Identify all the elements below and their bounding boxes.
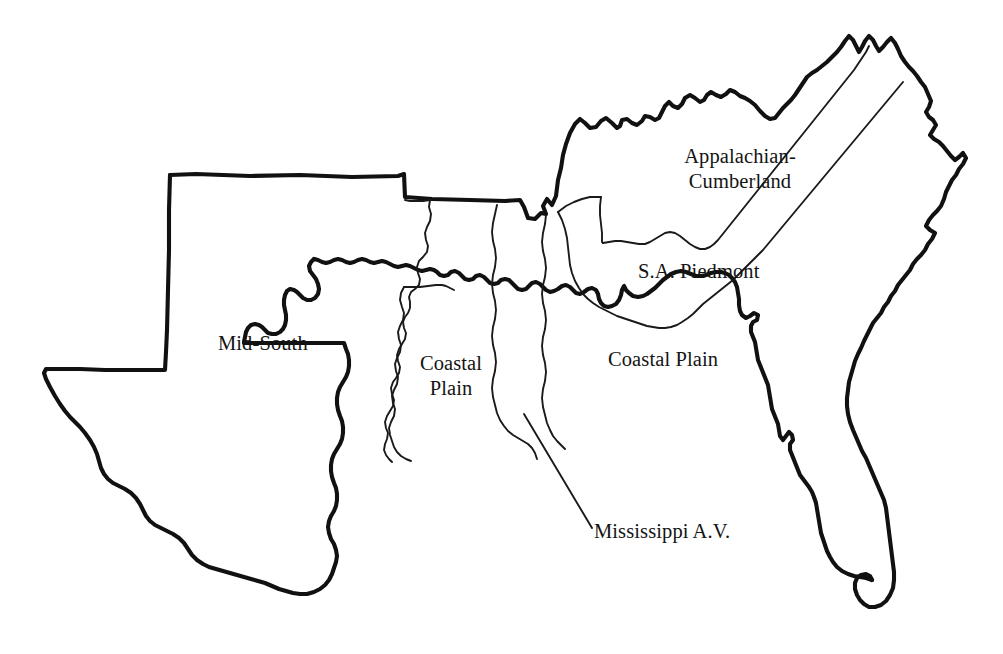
label-coastal-plain-east: Coastal Plain: [608, 347, 788, 372]
mississippi-av-east-line: [542, 215, 565, 449]
region-outer-boundary: [170, 36, 966, 607]
map-figure: Mid-South Coastal Plain Appalachian- Cum…: [0, 0, 1003, 654]
label-sa-piedmont: S.A. Piedmont: [638, 259, 818, 284]
mississippi-av-west-line: [492, 205, 537, 459]
label-appalachian-cumberland: Appalachian- Cumberland: [640, 144, 840, 194]
arkansas-region-boundary: [404, 285, 454, 290]
appalachian-west-boundary: [600, 197, 603, 243]
coastalplain-north-boundary: [405, 200, 430, 201]
piedmont-west-connector: [558, 197, 601, 212]
label-mississippi-av: Mississippi A.V.: [594, 519, 814, 544]
texas-panhandle-west: [44, 175, 349, 594]
label-mid-south: Mid-South: [218, 331, 418, 356]
label-coastal-plain-west: Coastal Plain: [396, 351, 506, 401]
mississippi-av-leader-line: [524, 414, 592, 528]
texas-boundary: [244, 259, 319, 342]
map-graphic: [0, 0, 1003, 654]
